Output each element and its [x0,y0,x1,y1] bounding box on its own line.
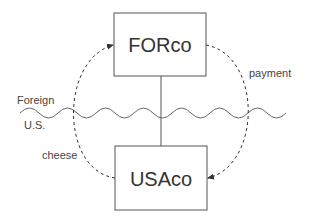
cheese-label: cheese [42,149,77,161]
forco-node: FORco [114,13,206,76]
foreign-label: Foreign [17,94,54,106]
border-wave-line [20,108,286,118]
payment-label: payment [249,67,291,79]
usaco-label: USAco [130,168,192,190]
diagram-canvas: FORco USAco Foreign U.S. cheese payment [0,0,310,217]
cheese-flow-arrow [73,45,115,178]
usaco-node: USAco [115,146,207,210]
forco-label: FORco [128,34,191,56]
us-label: U.S. [24,119,45,131]
